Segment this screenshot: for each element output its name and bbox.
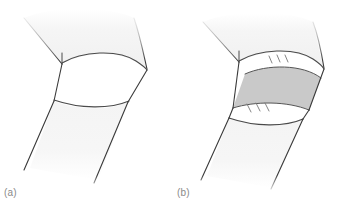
- figure-panel-b: (b): [173, 0, 345, 203]
- panel-b-caption: (b): [177, 188, 190, 198]
- figure-panel-a: (a): [0, 0, 172, 203]
- figure-root: (a): [0, 0, 345, 203]
- panel-a-caption: (a): [4, 188, 17, 198]
- panel-b-illustration: [173, 0, 345, 203]
- joint-segment-fill: [54, 54, 146, 108]
- lower-limb-fill: [207, 118, 303, 188]
- lower-limb-fill: [30, 101, 128, 180]
- panel-a-illustration: [0, 0, 172, 203]
